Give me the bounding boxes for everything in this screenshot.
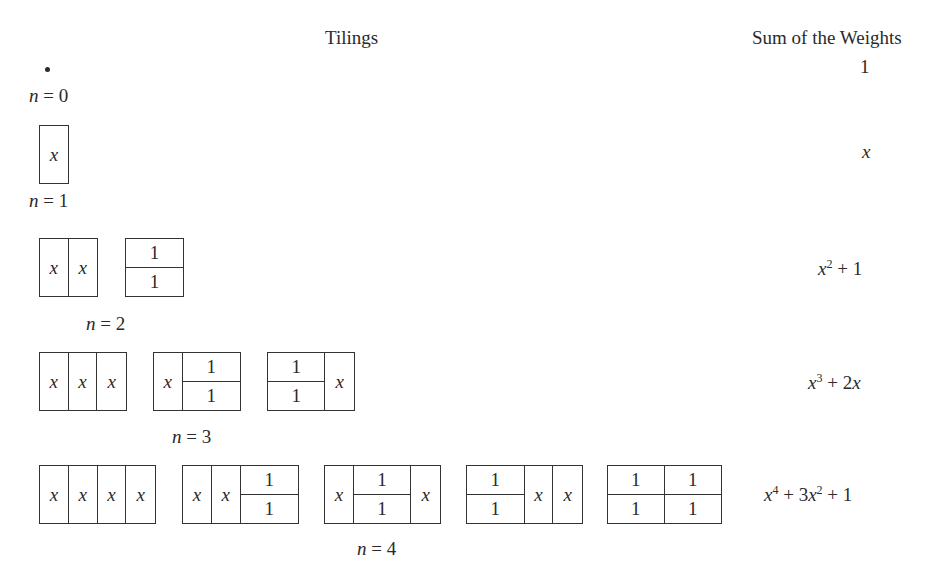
domino-pair: 1 1 xyxy=(268,353,325,410)
domino-bottom: 1 xyxy=(665,495,721,523)
domino-top: 1 xyxy=(126,239,183,268)
domino-pair: 1 1 xyxy=(665,466,721,523)
tiling-n4-2: x x 1 1 xyxy=(182,465,299,524)
tiling-n4-4: 1 1 x x xyxy=(466,465,583,524)
tiling-n4-5: 1 1 1 1 xyxy=(607,465,722,524)
sum-n3: x3 + 2x xyxy=(808,372,861,394)
square-cell: x xyxy=(126,466,155,523)
square-cell: x xyxy=(69,353,98,410)
square-cell: x xyxy=(98,466,127,523)
n3-label: n = 3 xyxy=(172,426,211,448)
tilings-header: Tilings xyxy=(325,27,378,49)
tiling-n3-3: 1 1 x xyxy=(267,352,355,411)
square-cell: x xyxy=(69,466,98,523)
domino-top: 1 xyxy=(665,466,721,495)
domino-top: 1 xyxy=(241,466,299,495)
square-cell: x xyxy=(183,466,212,523)
tiling-n3-1: x x x xyxy=(39,352,127,411)
empty-tiling-dot xyxy=(45,67,50,72)
domino-pair: 1 1 xyxy=(126,239,183,296)
square-cell: x xyxy=(525,466,554,523)
domino-bottom: 1 xyxy=(354,495,411,523)
domino-pair: 1 1 xyxy=(467,466,525,523)
square-cell: x xyxy=(212,466,241,523)
square-cell: x xyxy=(97,353,126,410)
square-cell: x xyxy=(325,353,354,410)
sum-of-weights-header: Sum of the Weights xyxy=(752,27,902,49)
domino-top: 1 xyxy=(354,466,411,495)
square-cell: x xyxy=(40,239,69,296)
domino-bottom: 1 xyxy=(608,495,664,523)
sum-n2: x2 + 1 xyxy=(818,258,862,280)
domino-pair: 1 1 xyxy=(183,353,240,410)
tiling-n1-1: x xyxy=(39,125,69,184)
tiling-n2-1: x x xyxy=(39,238,98,297)
square-cell: x xyxy=(40,126,68,183)
n0-label: n = 0 xyxy=(29,85,68,107)
domino-top: 1 xyxy=(608,466,664,495)
square-cell: x xyxy=(154,353,183,410)
square-cell: x xyxy=(69,239,98,296)
domino-top: 1 xyxy=(183,353,240,382)
square-cell: x xyxy=(411,466,440,523)
tiling-n4-3: x 1 1 x xyxy=(324,465,441,524)
domino-top: 1 xyxy=(467,466,524,495)
domino-pair: 1 1 xyxy=(354,466,412,523)
domino-bottom: 1 xyxy=(126,268,183,296)
n4-label: n = 4 xyxy=(357,538,396,560)
tiling-n3-2: x 1 1 xyxy=(153,352,241,411)
square-cell: x xyxy=(40,353,69,410)
domino-pair: 1 1 xyxy=(241,466,299,523)
tiling-n2-2: 1 1 xyxy=(125,238,184,297)
tiling-n4-1: x x x x xyxy=(39,465,156,524)
square-cell: x xyxy=(325,466,354,523)
n2-label: n = 2 xyxy=(86,313,125,335)
domino-bottom: 1 xyxy=(268,382,324,410)
domino-bottom: 1 xyxy=(183,382,240,410)
domino-bottom: 1 xyxy=(241,495,299,523)
n1-label: n = 1 xyxy=(29,190,68,212)
domino-pair: 1 1 xyxy=(608,466,665,523)
sum-n4: x4 + 3x2 + 1 xyxy=(764,484,852,506)
sum-n1: x xyxy=(862,141,870,163)
sum-n0: 1 xyxy=(860,56,870,78)
domino-bottom: 1 xyxy=(467,495,524,523)
square-cell: x xyxy=(40,466,69,523)
domino-top: 1 xyxy=(268,353,324,382)
square-cell: x xyxy=(553,466,582,523)
